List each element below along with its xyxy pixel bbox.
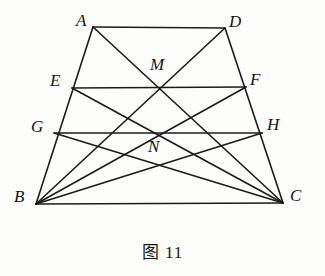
- vertex-label-A: A: [76, 12, 86, 29]
- vertex-label-H: H: [267, 116, 279, 133]
- figure-caption: 图 11: [0, 238, 325, 263]
- segment-AD: [93, 27, 225, 28]
- vertex-label-F: F: [250, 71, 260, 88]
- vertex-label-D: D: [229, 13, 241, 30]
- vertex-label-N: N: [148, 138, 159, 155]
- geometry-diagram-svg: [0, 0, 325, 276]
- vertex-label-B: B: [14, 188, 24, 205]
- segment-layer: [36, 27, 283, 204]
- vertex-label-M: M: [150, 56, 164, 73]
- segment-GC: [54, 133, 283, 203]
- vertex-label-E: E: [50, 72, 60, 89]
- vertex-label-G: G: [31, 118, 43, 135]
- segment-BC: [36, 203, 283, 204]
- vertex-label-C: C: [290, 187, 301, 204]
- geometry-figure: A D B C E F G H M N 图 11: [0, 0, 325, 276]
